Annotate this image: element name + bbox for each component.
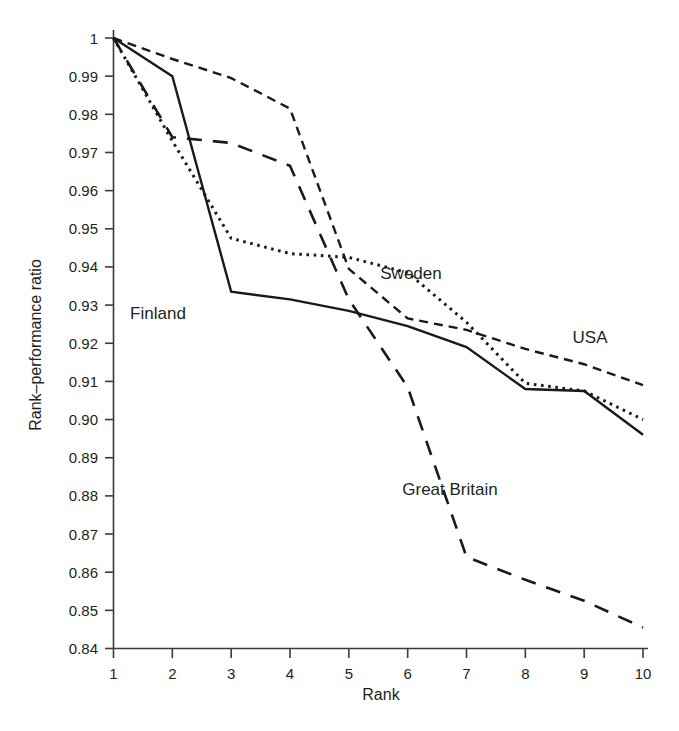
x-tick-label-4: 5 [345,665,353,682]
series-label-finland: Finland [130,304,186,323]
y-tick-label-5: 0.95 [69,220,98,237]
y-tick-label-12: 0.88 [69,487,98,504]
y-tick-label-7: 0.93 [69,297,98,314]
x-tick-label-5: 6 [403,665,411,682]
y-tick-label-9: 0.91 [69,373,98,390]
x-tick-label-7: 8 [521,665,529,682]
y-tick-label-1: 0.99 [69,68,98,85]
x-tick-label-8: 9 [580,665,588,682]
series-label-great-britain: Great Britain [402,480,497,499]
y-tick-label-2: 0.98 [69,106,98,123]
x-tick-label-3: 4 [286,665,294,682]
series-label-sweden: Sweden [380,264,441,283]
x-tick-label-2: 3 [227,665,235,682]
x-tick-label-0: 1 [109,665,117,682]
y-tick-label-11: 0.89 [69,449,98,466]
y-axis-title: Rank–performance ratio [27,259,44,431]
chart-figure: 10.990.980.970.960.950.940.930.920.910.9… [0,0,679,731]
y-tick-label-13: 0.87 [69,526,98,543]
y-tick-label-15: 0.85 [69,602,98,619]
y-tick-label-10: 0.90 [69,411,98,428]
chart-background [0,0,679,731]
y-tick-label-14: 0.86 [69,564,98,581]
x-tick-label-9: 10 [635,665,652,682]
y-tick-label-3: 0.97 [69,144,98,161]
y-tick-label-0: 1 [90,30,98,47]
x-tick-label-6: 7 [462,665,470,682]
x-tick-label-1: 2 [168,665,176,682]
y-tick-label-4: 0.96 [69,182,98,199]
y-tick-label-16: 0.84 [69,640,98,657]
series-label-usa: USA [573,328,609,347]
x-axis-title: Rank [362,686,400,703]
y-tick-label-8: 0.92 [69,335,98,352]
rank-performance-line-chart: 10.990.980.970.960.950.940.930.920.910.9… [0,0,679,731]
y-tick-label-6: 0.94 [69,258,98,275]
